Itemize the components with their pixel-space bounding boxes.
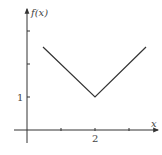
chart: f(x) x 2 1 bbox=[0, 0, 162, 155]
function-line bbox=[43, 47, 146, 97]
y-axis-label: f(x) bbox=[30, 7, 48, 18]
y-tick-label-1: 1 bbox=[17, 92, 23, 103]
x-tick-label-2: 2 bbox=[92, 133, 98, 144]
x-axis-label: x bbox=[151, 118, 157, 129]
